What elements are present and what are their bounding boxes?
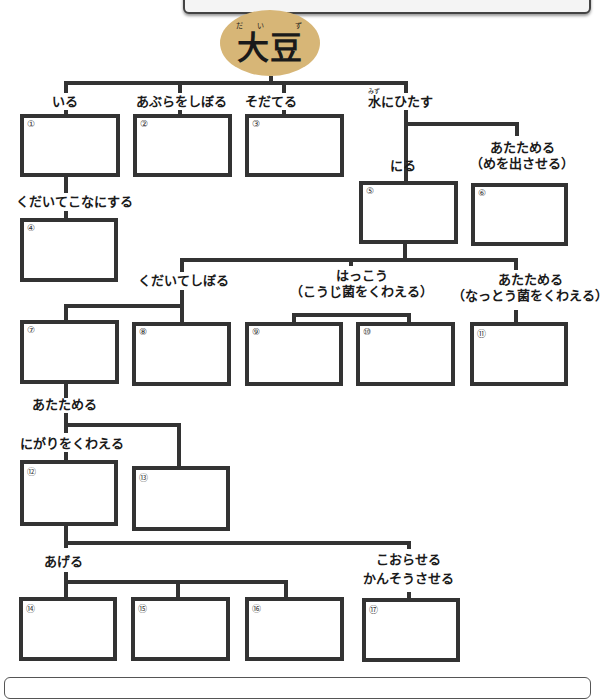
connector [177, 423, 181, 467]
label-abura-wo-shiboru: あぶらをしぼる [136, 94, 227, 110]
connector [64, 572, 68, 598]
label-atatameru-line2: （めを出させる） [470, 156, 574, 172]
box-number: ③ [252, 119, 260, 129]
top-banner [183, 0, 591, 14]
connector [282, 81, 286, 93]
answer-box-17[interactable]: ⑰ [362, 598, 460, 662]
connector [349, 258, 353, 266]
answer-box-10[interactable]: ⑩ [356, 322, 455, 386]
box-number: ② [140, 119, 148, 129]
connector [178, 81, 182, 93]
label-atatameru-line1: あたためる [470, 140, 574, 156]
answer-box-16[interactable]: ⑯ [245, 597, 344, 661]
label-nigari: にがりをくわえる [20, 436, 124, 452]
label-atatameru: あたためる [32, 397, 97, 413]
label-koraseru-line1: こおらせる [363, 550, 454, 569]
connector [176, 580, 180, 598]
box-number: ⑪ [477, 327, 486, 340]
box-number: ① [27, 119, 35, 129]
label-iru: いる [52, 94, 78, 110]
connector [515, 122, 519, 136]
connector [64, 81, 68, 93]
label-hakkou: はっこう （こうじ菌をくわえる） [290, 268, 433, 300]
connector [404, 122, 519, 126]
connector [64, 177, 68, 193]
label-kudaite-shiboru: くだいてしぼる [138, 273, 229, 289]
label-kudaite-kona: くだいてこなにする [16, 194, 133, 210]
box-number: ⑭ [26, 602, 35, 615]
box-number: ⑫ [27, 465, 36, 478]
answer-box-3[interactable]: ③ [245, 114, 344, 177]
root-label: 大豆 [237, 31, 303, 65]
answer-box-15[interactable]: ⑮ [131, 597, 230, 661]
label-hakkou-line1: はっこう [290, 268, 433, 284]
answer-box-1[interactable]: ① [20, 114, 120, 177]
answer-box-13[interactable]: ⑬ [132, 466, 230, 531]
connector [180, 258, 184, 272]
answer-box-5[interactable]: ⑤ [359, 181, 458, 244]
connector [64, 304, 184, 308]
box-number: ⑩ [363, 327, 371, 337]
connector [64, 541, 411, 545]
answer-box-4[interactable]: ④ [20, 218, 118, 282]
box-number: ④ [27, 223, 35, 233]
root-node-soybean: だい ず 大豆 [220, 10, 320, 76]
label-niru: にる [390, 158, 416, 174]
connector [284, 580, 288, 598]
connector [407, 541, 411, 549]
box-number: ⑯ [252, 602, 261, 615]
box-number: ⑨ [252, 327, 260, 337]
answer-box-8[interactable]: ⑧ [132, 322, 231, 386]
label-sodateru: そだてる [245, 94, 297, 110]
label-atatameru-me: あたためる （めを出させる） [470, 140, 574, 172]
connector [514, 258, 518, 270]
box-number: ⑰ [369, 603, 378, 616]
box-number: ⑮ [138, 602, 147, 615]
label-natto-line2: （なっとう菌をくわえる） [452, 288, 604, 304]
bottom-frame [4, 677, 591, 699]
label-mizu-text: 水にひたす [368, 94, 433, 109]
connector [64, 81, 408, 85]
label-hakkou-line2: （こうじ菌をくわえる） [290, 284, 433, 300]
box-number: ⑤ [366, 186, 374, 196]
answer-box-12[interactable]: ⑫ [20, 460, 118, 526]
ruby-mizu: みず [368, 87, 433, 94]
connector [292, 313, 411, 317]
label-ageru: あげる [44, 554, 83, 570]
connector [64, 384, 68, 398]
answer-box-7[interactable]: ⑦ [20, 320, 119, 384]
answer-box-11[interactable]: ⑪ [470, 322, 568, 386]
box-number: ⑧ [139, 327, 147, 337]
connector [64, 423, 181, 427]
answer-box-2[interactable]: ② [133, 114, 232, 177]
answer-box-6[interactable]: ⑥ [471, 183, 568, 246]
label-mizu-ni-hitasu: みず 水にひたす [368, 87, 433, 110]
label-natto-line1: あたためる [452, 272, 604, 288]
label-koraseru-line2: かんそうさせる [363, 569, 454, 588]
label-natto: あたためる （なっとう菌をくわえる） [452, 272, 604, 304]
box-number: ⑬ [139, 471, 148, 484]
label-koraseru: こおらせる かんそうさせる [363, 550, 454, 588]
answer-box-9[interactable]: ⑨ [245, 322, 343, 386]
box-number: ⑦ [27, 325, 35, 335]
box-number: ⑥ [478, 188, 486, 198]
answer-box-14[interactable]: ⑭ [19, 597, 117, 661]
